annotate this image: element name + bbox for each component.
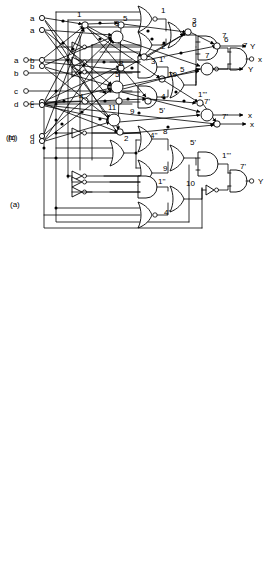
net-label-11: 11 bbox=[108, 103, 117, 112]
net-output-label-Y: Y bbox=[248, 65, 254, 74]
net-input-label-b: b bbox=[30, 62, 35, 71]
inverter-a7-bubble bbox=[215, 188, 219, 192]
net-input-label-c: c bbox=[30, 101, 34, 110]
gate-4prime-bubble bbox=[153, 213, 157, 217]
net-node-7prime bbox=[201, 109, 213, 121]
output-terminal-Y bbox=[249, 179, 253, 183]
net-input-label-a: a bbox=[30, 26, 35, 35]
net-label-7prime: 7' bbox=[204, 97, 210, 106]
net-input-b bbox=[39, 63, 44, 68]
net-label-3: 3 bbox=[115, 19, 120, 28]
net-node-3 bbox=[111, 31, 123, 43]
panel-c-output-nodes bbox=[201, 63, 243, 121]
figure-root: a b c d bbox=[0, 0, 265, 566]
net-output-label-x: x bbox=[248, 111, 252, 120]
panel-c-edges-input-hidden bbox=[45, 30, 113, 141]
net-node-5 bbox=[111, 81, 123, 93]
inverter-a8-bubble bbox=[83, 180, 87, 184]
panel-c-edges-hidden-output bbox=[119, 40, 200, 122]
net-label-5: 5 bbox=[115, 70, 120, 79]
panel-c-input-terminals bbox=[39, 27, 44, 143]
net-node-7 bbox=[201, 63, 213, 75]
net-label-7: 7 bbox=[205, 51, 210, 60]
gate-10-or bbox=[170, 186, 202, 212]
inverter-a9 bbox=[72, 187, 140, 197]
output-label-Y: Y bbox=[258, 177, 264, 186]
net-input-label-d: d bbox=[30, 137, 34, 146]
net-input-c bbox=[39, 102, 44, 107]
gate-label-10: 10 bbox=[186, 179, 195, 188]
net-node-11 bbox=[108, 114, 120, 126]
panel-a-caption: (a) bbox=[10, 200, 20, 209]
panel-c-caption: (c) bbox=[8, 133, 18, 142]
inverter-a8 bbox=[72, 177, 140, 187]
gate-4prime-nor bbox=[44, 202, 168, 228]
net-input-a bbox=[39, 27, 44, 32]
net-input-d bbox=[39, 138, 44, 143]
inverter-a7 bbox=[202, 185, 228, 195]
panel-c-simplified-network: a b c d bbox=[0, 0, 265, 176]
gate-label-1ddprime: 1'' bbox=[158, 177, 166, 186]
